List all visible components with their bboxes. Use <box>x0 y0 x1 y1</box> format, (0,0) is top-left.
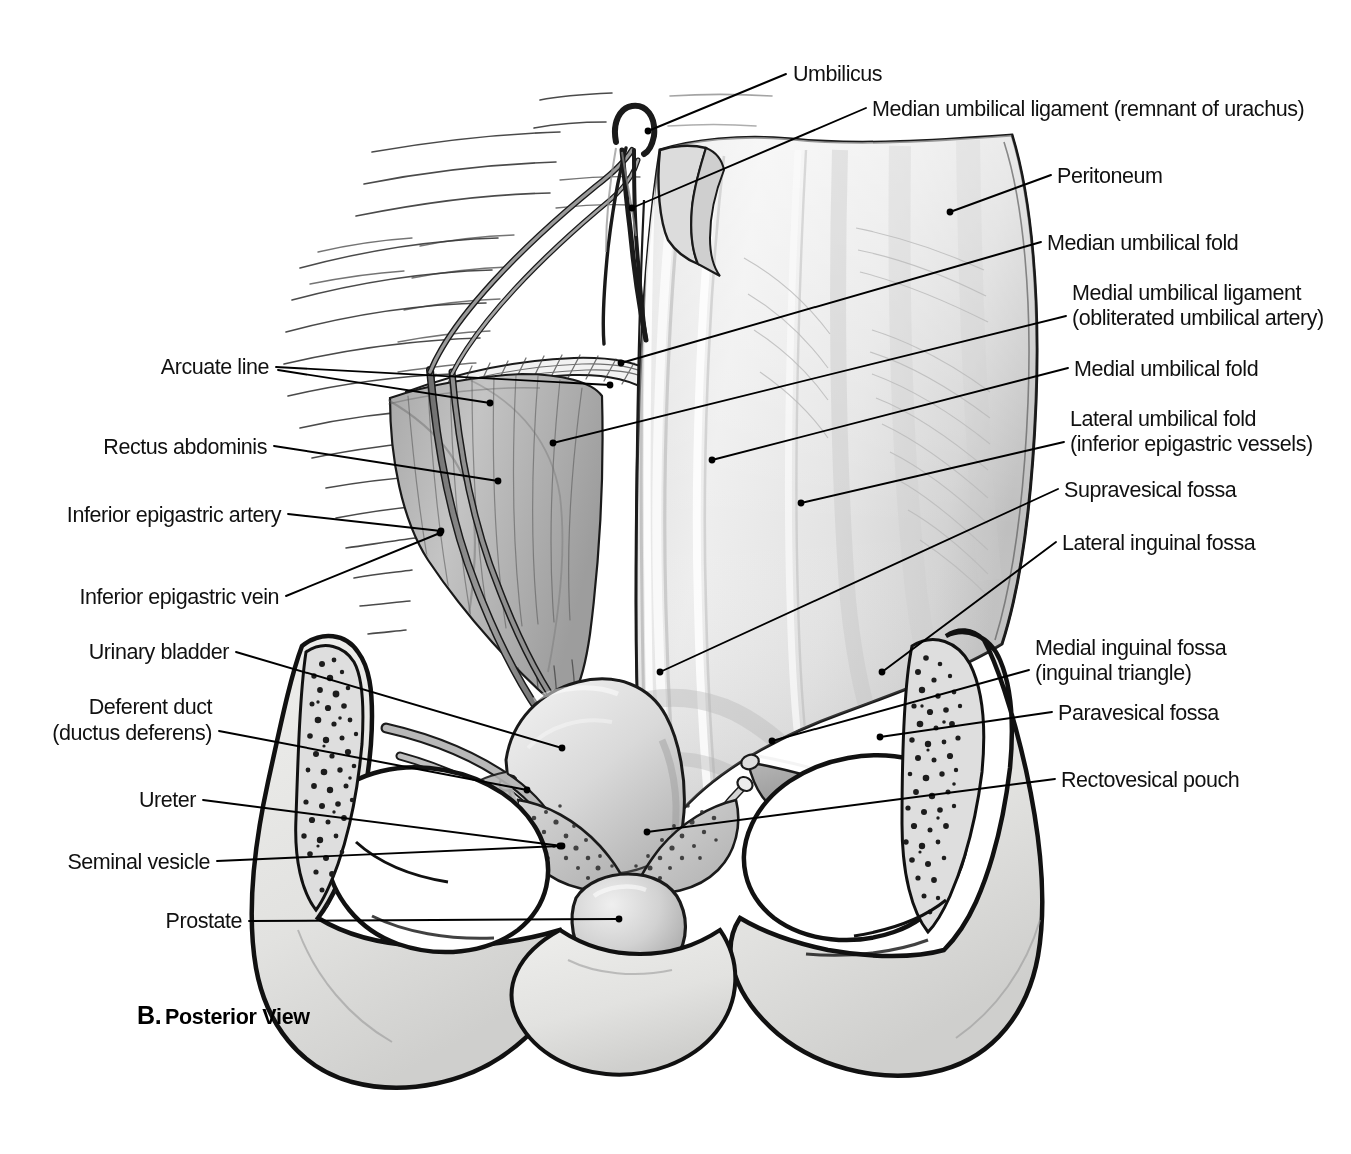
label-deferent-duct-sub: (ductus deferens) <box>52 721 212 745</box>
label-supravesical-fossa: Supravesical fossa <box>1064 478 1237 502</box>
label-peritoneum: Peritoneum <box>1057 164 1162 188</box>
label-inferior-epigastric-artery: Inferior epigastric artery <box>67 503 282 527</box>
label-medial-umbilical-ligament-sub: (obliterated umbilical artery) <box>1072 306 1324 330</box>
label-medial-umbilical-fold: Medial umbilical fold <box>1074 357 1258 381</box>
label-medial-inguinal-fossa-sub: (inguinal triangle) <box>1035 661 1191 685</box>
label-median-umbilical-ligament: Median umbilical ligament (remnant of ur… <box>872 97 1304 121</box>
label-median-umbilical-fold: Median umbilical fold <box>1047 231 1238 255</box>
label-prostate: Prostate <box>166 909 242 933</box>
caption-letter: B. <box>137 1001 161 1029</box>
label-lateral-inguinal-fossa: Lateral inguinal fossa <box>1062 531 1256 555</box>
label-deferent-duct: Deferent duct <box>89 695 213 719</box>
label-seminal-vesicle: Seminal vesicle <box>67 850 210 874</box>
label-rectovesical-pouch: Rectovesical pouch <box>1061 768 1239 792</box>
label-rectus-abdominis: Rectus abdominis <box>103 435 267 459</box>
anatomy-figure: Umbilicus Median umbilical ligament (rem… <box>0 0 1351 1154</box>
label-paravesical-fossa: Paravesical fossa <box>1058 701 1219 725</box>
label-urinary-bladder: Urinary bladder <box>89 640 230 664</box>
label-lateral-umbilical-fold-sub: (inferior epigastric vessels) <box>1070 432 1313 456</box>
label-inferior-epigastric-vein: Inferior epigastric vein <box>79 585 279 609</box>
label-medial-umbilical-ligament: Medial umbilical ligament <box>1072 281 1301 305</box>
label-arcuate-line: Arcuate line <box>161 355 269 379</box>
caption-text: Posterior View <box>165 1005 310 1029</box>
label-ureter: Ureter <box>139 788 196 812</box>
label-umbilicus: Umbilicus <box>793 62 882 86</box>
label-lateral-umbilical-fold: Lateral umbilical fold <box>1070 407 1256 431</box>
label-medial-inguinal-fossa: Medial inguinal fossa <box>1035 636 1227 660</box>
